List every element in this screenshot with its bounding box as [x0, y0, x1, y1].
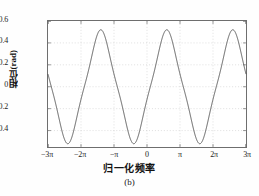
y-tick-label: 0.6: [0, 16, 8, 24]
y-tick-label: 0.2: [0, 59, 8, 67]
y-tick-label: 0: [4, 81, 8, 89]
y-axis-title: 相位(rad): [6, 50, 20, 88]
x-tick-label: 3π: [243, 150, 251, 159]
y-tick-label: −0.4: [0, 125, 8, 133]
x-tick-label: 2π: [210, 150, 218, 159]
plot-area: [47, 20, 247, 148]
x-tick-label: π: [178, 150, 182, 159]
x-tick-label: −π: [110, 150, 118, 159]
phase-curve: [48, 21, 246, 147]
x-tick-label: 0: [145, 150, 149, 159]
figure-caption: (b): [0, 177, 259, 187]
y-tick-label: 0.4: [0, 37, 8, 45]
x-tick-label: −2π: [74, 150, 86, 159]
x-tick-label: −3π: [41, 150, 53, 159]
figure-panel: 相位(rad) 0.6 0.4 0.2 0 −0.2 −0.4 −3π −2π …: [0, 0, 259, 196]
x-axis-title: 归一化频率: [0, 160, 259, 175]
y-tick-label: −0.2: [0, 103, 8, 111]
